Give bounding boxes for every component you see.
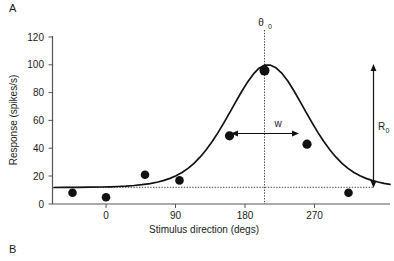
tuning-width-label: w: [273, 118, 282, 129]
y-tick-label-40: 40: [33, 143, 45, 154]
data-point: [344, 188, 353, 197]
y-tick-label-0: 0: [38, 199, 44, 210]
x-axis-ticks: [106, 204, 315, 208]
y-tick-label-100: 100: [27, 59, 44, 70]
y-axis-title: Response (spikes/s): [8, 75, 19, 166]
data-point: [302, 140, 311, 149]
tuning-curve-chart: 120 100 80 60 40 20 0 0 90 180 270 Stimu…: [0, 0, 394, 261]
baseline-amplitude-label: R: [378, 121, 385, 132]
data-point: [141, 171, 150, 180]
data-point-group: [68, 66, 353, 202]
y-tick-label-60: 60: [33, 115, 45, 126]
data-point: [175, 176, 184, 185]
x-tick-label-270: 270: [306, 210, 323, 221]
y-tick-label-20: 20: [33, 171, 45, 182]
x-axis-title: Stimulus direction (degs): [149, 224, 259, 235]
data-point: [225, 131, 234, 140]
data-point: [260, 66, 270, 76]
fitted-tuning-curve: [54, 65, 390, 188]
x-tick-label-90: 90: [170, 210, 182, 221]
y-tick-label-120: 120: [27, 32, 44, 43]
data-point: [102, 193, 111, 202]
baseline-amplitude-arrow: [371, 64, 377, 188]
tuning-width-arrow: [231, 131, 299, 137]
baseline-amplitude-subscript: 0: [386, 127, 390, 134]
x-tick-label-0: 0: [103, 210, 109, 221]
x-tick-label-180: 180: [237, 210, 254, 221]
y-tick-label-80: 80: [33, 87, 45, 98]
figure-panel-a: A B 120 100 80 60 40 20 0: [0, 0, 394, 261]
preferred-direction-label: θ: [258, 17, 264, 28]
data-point: [68, 188, 77, 197]
preferred-direction-subscript: 0: [268, 23, 272, 30]
